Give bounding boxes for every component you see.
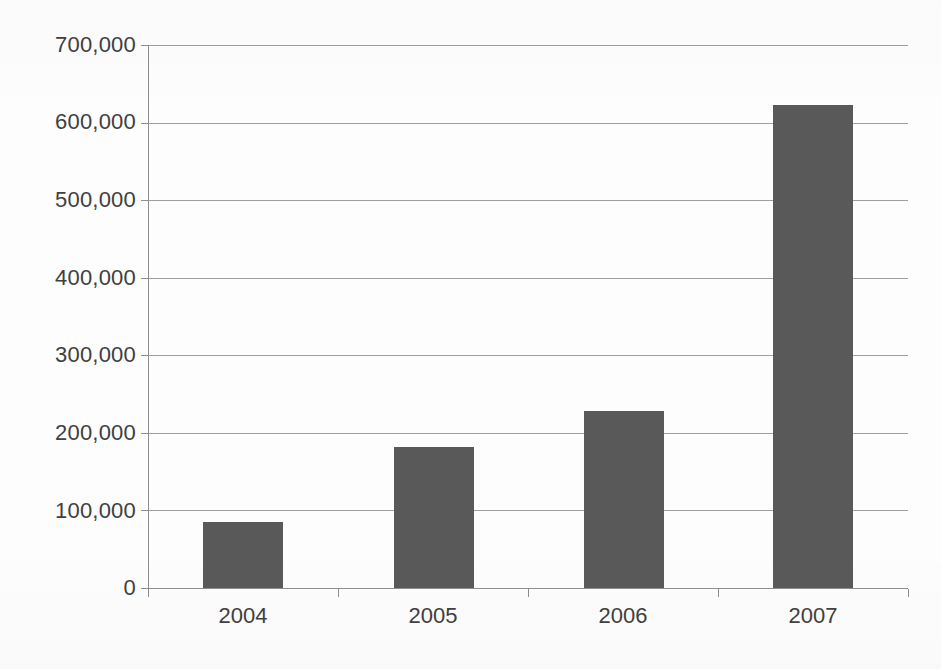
x-axis-label-2006: 2006 (528, 604, 718, 628)
bar-2005 (394, 447, 474, 588)
bar-chart: 700,000 600,000 500,000 400,000 300,000 … (0, 0, 941, 669)
y-axis-tick-label: 200,000 (16, 422, 136, 444)
gridline (148, 45, 908, 46)
x-axis-tick (528, 589, 529, 597)
y-axis-tick (141, 45, 148, 46)
y-axis-tick (141, 433, 148, 434)
x-axis-label-2004: 2004 (148, 604, 338, 628)
y-axis-tick-label: 300,000 (16, 344, 136, 366)
y-axis-tick (141, 355, 148, 356)
x-axis-tick (718, 589, 719, 597)
x-axis-tick (148, 589, 149, 597)
bar-2004 (203, 522, 283, 588)
bar-2006 (584, 411, 664, 588)
y-axis-tick (141, 510, 148, 511)
plot-area (148, 45, 908, 588)
y-axis-labels: 700,000 600,000 500,000 400,000 300,000 … (10, 0, 136, 669)
y-axis-tick-label: 500,000 (16, 189, 136, 211)
y-axis-tick (141, 200, 148, 201)
y-axis-tick (141, 123, 148, 124)
y-axis-tick-label: 600,000 (16, 111, 136, 133)
y-axis-tick-label: 0 (16, 577, 136, 599)
y-axis-tick-label: 100,000 (16, 500, 136, 522)
y-axis-tick (141, 278, 148, 279)
x-axis-tick (338, 589, 339, 597)
y-axis-tick-label: 700,000 (16, 34, 136, 56)
x-axis-label-2005: 2005 (338, 604, 528, 628)
bar-2007 (773, 105, 853, 588)
y-axis-tick (141, 588, 148, 589)
y-axis-tick-label: 400,000 (16, 267, 136, 289)
x-axis-label-2007: 2007 (718, 604, 908, 628)
x-axis-tick (908, 589, 909, 597)
